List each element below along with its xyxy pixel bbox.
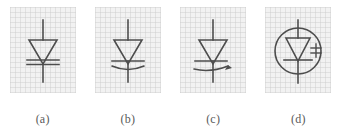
tuning-mark bbox=[311, 44, 321, 57]
caption-row: (a) (b) (c) (d) bbox=[0, 100, 341, 132]
caption-label-a: (a) bbox=[36, 112, 50, 126]
symbol-cell-d bbox=[256, 0, 341, 100]
triangle-anode bbox=[286, 38, 310, 61]
symbol-cell-c bbox=[171, 0, 256, 100]
caption-cell-b: (b) bbox=[85, 100, 170, 132]
variable-capacitance-diode-symbol bbox=[180, 7, 246, 93]
diode-symbol-figure: (a) (b) (c) (d) bbox=[0, 0, 341, 132]
symbol-cell-b bbox=[85, 0, 170, 100]
encircled-tuning-diode-symbol bbox=[265, 7, 331, 93]
symbol-cell-a bbox=[0, 0, 85, 100]
varactor-diode-symbol bbox=[95, 7, 161, 93]
caption-cell-c: (c) bbox=[171, 100, 256, 132]
caption-cell-a: (a) bbox=[0, 100, 85, 132]
symbol-panel-row bbox=[0, 0, 341, 100]
caption-label-c: (c) bbox=[206, 112, 220, 126]
caption-cell-d: (d) bbox=[256, 100, 341, 132]
zener-diode-symbol bbox=[10, 7, 76, 93]
caption-label-d: (d) bbox=[291, 112, 306, 126]
caption-label-b: (b) bbox=[121, 112, 136, 126]
capacitance-arc bbox=[194, 66, 228, 70]
symbol-panel-c bbox=[180, 7, 246, 93]
symbol-panel-a bbox=[10, 7, 76, 93]
symbol-panel-d bbox=[265, 7, 331, 93]
symbol-panel-b bbox=[95, 7, 161, 93]
